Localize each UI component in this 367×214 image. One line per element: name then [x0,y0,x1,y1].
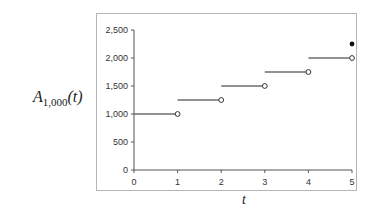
y-tick-label: 0 [123,165,128,175]
x-axis-label: t [242,192,246,208]
open-endpoint [175,112,180,117]
open-endpoint [350,56,355,61]
open-endpoint [219,98,224,103]
x-tick-label: 0 [131,177,136,187]
x-tick-label: 2 [219,177,224,187]
y-tick-label: 500 [113,137,128,147]
x-tick-label: 1 [175,177,180,187]
x-tick-label: 3 [262,177,267,187]
filled-point [350,42,355,47]
y-tick-label: 1,000 [105,109,128,119]
open-endpoint [262,84,267,89]
y-tick-label: 1,500 [105,81,128,91]
plot-area: 05001,0001,5002,0002,500012345 [0,0,367,214]
y-tick-label: 2,500 [105,25,128,35]
x-tick-label: 4 [306,177,311,187]
open-endpoint [306,70,311,75]
x-tick-label: 5 [349,177,354,187]
y-tick-label: 2,000 [105,53,128,63]
